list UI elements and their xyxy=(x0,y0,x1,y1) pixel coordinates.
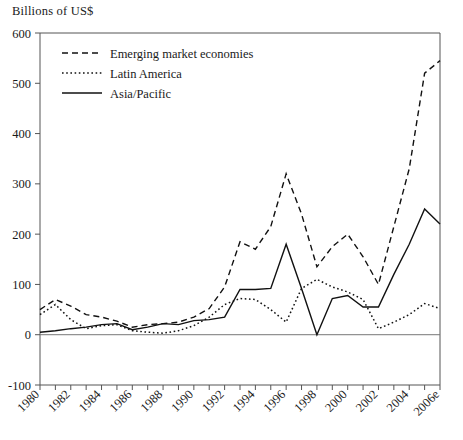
legend-label: Asia/Pacific xyxy=(110,87,172,101)
x-tick-label: 1984 xyxy=(76,387,104,415)
x-tick-label: 1986 xyxy=(107,387,135,415)
y-tick-label: 400 xyxy=(12,127,31,141)
chart-container: Billions of US$ 6005004003002001000-100 … xyxy=(0,0,463,440)
x-tick-label: 1982 xyxy=(45,387,73,415)
y-tick-label: 300 xyxy=(12,177,31,191)
y-axis-ticks: 6005004003002001000-100 xyxy=(8,27,40,393)
y-tick-label: -100 xyxy=(8,379,31,393)
x-tick-label: 1992 xyxy=(199,387,227,415)
legend-label: Emerging market economies xyxy=(110,47,254,61)
chart-legend: Emerging market economiesLatin AmericaAs… xyxy=(62,47,254,101)
x-tick-label: 2000 xyxy=(322,387,350,415)
x-axis-ticks: 1980198219841986198819901992199419961998… xyxy=(15,385,443,419)
y-tick-label: 200 xyxy=(12,228,31,242)
y-tick-label: 600 xyxy=(12,27,31,41)
plot-frame xyxy=(40,33,440,385)
y-axis-title: Billions of US$ xyxy=(12,4,94,19)
x-tick-label: 1994 xyxy=(230,387,258,415)
legend-label: Latin America xyxy=(110,67,182,81)
x-tick-label: 1988 xyxy=(138,387,166,415)
x-tick-label: 1996 xyxy=(261,387,289,415)
y-tick-label: 500 xyxy=(12,77,31,91)
series-line-asia-pacific xyxy=(40,209,440,335)
series-line-emerging-market-economies xyxy=(40,61,440,328)
x-tick-label: 1990 xyxy=(168,387,196,415)
x-tick-label: 2006e xyxy=(411,387,443,419)
x-tick-label: 2004 xyxy=(384,387,412,415)
y-tick-label: 0 xyxy=(25,328,31,342)
x-tick-label: 1998 xyxy=(291,387,319,415)
data-series-group xyxy=(40,61,440,335)
x-tick-label: 2002 xyxy=(353,387,381,415)
line-chart: 6005004003002001000-100 1980198219841986… xyxy=(0,0,463,440)
y-tick-label: 100 xyxy=(12,278,31,292)
